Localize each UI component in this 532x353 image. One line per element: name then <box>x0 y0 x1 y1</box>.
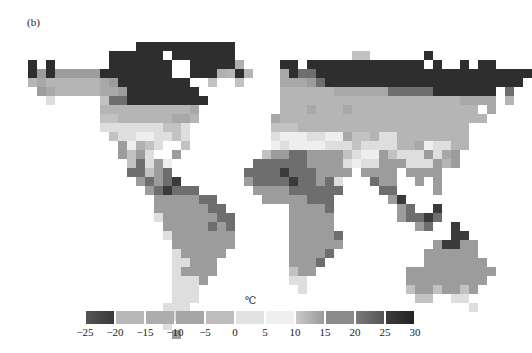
map-cell <box>298 267 307 276</box>
map-cell <box>451 294 460 303</box>
map-cell <box>469 249 478 258</box>
map-cell <box>343 69 352 78</box>
map-cell <box>181 141 190 150</box>
map-cell <box>298 105 307 114</box>
map-cell <box>298 231 307 240</box>
map-cell <box>478 87 487 96</box>
map-cell <box>334 231 343 240</box>
map-cell <box>217 249 226 258</box>
map-cell <box>199 204 208 213</box>
map-cell <box>433 276 442 285</box>
map-cell <box>370 123 379 132</box>
map-cell <box>370 60 379 69</box>
map-cell <box>361 96 370 105</box>
map-cell <box>199 213 208 222</box>
map-cell <box>217 213 226 222</box>
map-cell <box>226 42 235 51</box>
map-cell <box>406 204 415 213</box>
map-cell <box>325 105 334 114</box>
map-cell <box>433 141 442 150</box>
map-cell <box>343 132 352 141</box>
map-cell <box>460 69 469 78</box>
map-cell <box>190 276 199 285</box>
map-cell <box>325 123 334 132</box>
map-cell <box>172 177 181 186</box>
map-cell <box>361 114 370 123</box>
map-cell <box>460 258 469 267</box>
map-cell <box>181 213 190 222</box>
map-cell <box>451 150 460 159</box>
map-cell <box>442 141 451 150</box>
map-cell <box>199 60 208 69</box>
map-cell <box>325 96 334 105</box>
map-cell <box>478 267 487 276</box>
map-cell <box>361 87 370 96</box>
map-cell <box>181 222 190 231</box>
map-cell <box>118 123 127 132</box>
map-cell <box>406 159 415 168</box>
map-cell <box>298 87 307 96</box>
map-cell <box>235 60 244 69</box>
map-cell <box>406 123 415 132</box>
map-cell <box>172 240 181 249</box>
map-cell <box>244 177 253 186</box>
map-cell <box>145 177 154 186</box>
map-cell <box>154 96 163 105</box>
map-cell <box>127 51 136 60</box>
map-cell <box>316 69 325 78</box>
map-cell <box>154 42 163 51</box>
map-cell <box>154 195 163 204</box>
map-cell <box>127 96 136 105</box>
map-cell <box>181 123 190 132</box>
map-cell <box>397 141 406 150</box>
map-cell <box>289 114 298 123</box>
map-cell <box>28 60 37 69</box>
map-cell <box>298 114 307 123</box>
map-cell <box>190 204 199 213</box>
map-cell <box>316 96 325 105</box>
map-cell <box>451 114 460 123</box>
map-cell <box>442 123 451 132</box>
map-cell <box>64 69 73 78</box>
map-cell <box>433 285 442 294</box>
map-cell <box>145 96 154 105</box>
map-cell <box>433 168 442 177</box>
map-cell <box>127 69 136 78</box>
map-cell <box>199 69 208 78</box>
map-cell <box>451 249 460 258</box>
map-cell <box>82 87 91 96</box>
map-cell <box>280 78 289 87</box>
map-cell <box>163 177 172 186</box>
map-cell <box>361 168 370 177</box>
map-cell <box>415 87 424 96</box>
map-cell <box>343 168 352 177</box>
map-cell <box>388 132 397 141</box>
map-cell <box>406 141 415 150</box>
map-cell <box>487 69 496 78</box>
map-cell <box>145 42 154 51</box>
map-cell <box>325 114 334 123</box>
map-cell <box>334 69 343 78</box>
map-cell <box>397 132 406 141</box>
map-cell <box>154 69 163 78</box>
map-cell <box>208 195 217 204</box>
map-cell <box>361 105 370 114</box>
colorbar <box>86 311 418 324</box>
colorbar-tick-label: 30 <box>410 326 421 338</box>
map-cell <box>181 96 190 105</box>
map-cell <box>307 204 316 213</box>
map-cell <box>208 267 217 276</box>
colorbar-segment <box>326 311 354 324</box>
map-cell <box>424 294 433 303</box>
map-cell <box>406 78 415 87</box>
map-cell <box>424 87 433 96</box>
colorbar-segment <box>356 311 384 324</box>
map-cell <box>352 123 361 132</box>
map-cell <box>415 132 424 141</box>
map-cell <box>469 69 478 78</box>
map-cell <box>199 51 208 60</box>
map-cell <box>388 195 397 204</box>
map-cell <box>424 123 433 132</box>
map-cell <box>361 51 370 60</box>
map-cell <box>271 159 280 168</box>
